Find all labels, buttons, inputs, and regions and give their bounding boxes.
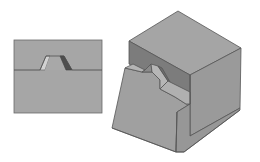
isometric-block [112, 11, 241, 152]
section-view-panel [14, 40, 102, 113]
section-view-background [14, 40, 102, 113]
figure-canvas [0, 0, 260, 162]
